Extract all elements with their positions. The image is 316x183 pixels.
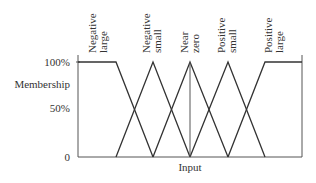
- series-positive-large: [228, 62, 302, 157]
- fuzzy-membership-chart: 100% Membership 50% 0 Input Negative lar…: [0, 0, 316, 183]
- label-negative-small: Negative small: [140, 13, 163, 53]
- series-positive-small: [190, 62, 265, 157]
- svg-text:zero: zero: [189, 34, 201, 53]
- x-axis-label: Input: [178, 161, 201, 173]
- svg-text:small: small: [151, 29, 163, 53]
- label-near-zero: Near zero: [178, 31, 201, 53]
- svg-text:large: large: [273, 31, 285, 53]
- label-negative-large: Negative large: [86, 13, 109, 53]
- ytick-100: 100%: [44, 56, 70, 68]
- ytick-0: 0: [65, 151, 71, 163]
- label-positive-small: Positive small: [215, 17, 238, 53]
- ytick-50: 50%: [50, 102, 70, 114]
- svg-text:large: large: [97, 31, 109, 53]
- svg-text:small: small: [226, 29, 238, 53]
- label-positive-large: Positive large: [262, 17, 285, 53]
- series-negative-small: [116, 62, 190, 157]
- series-negative-large: [78, 62, 153, 157]
- y-axis-label: Membership: [14, 78, 70, 90]
